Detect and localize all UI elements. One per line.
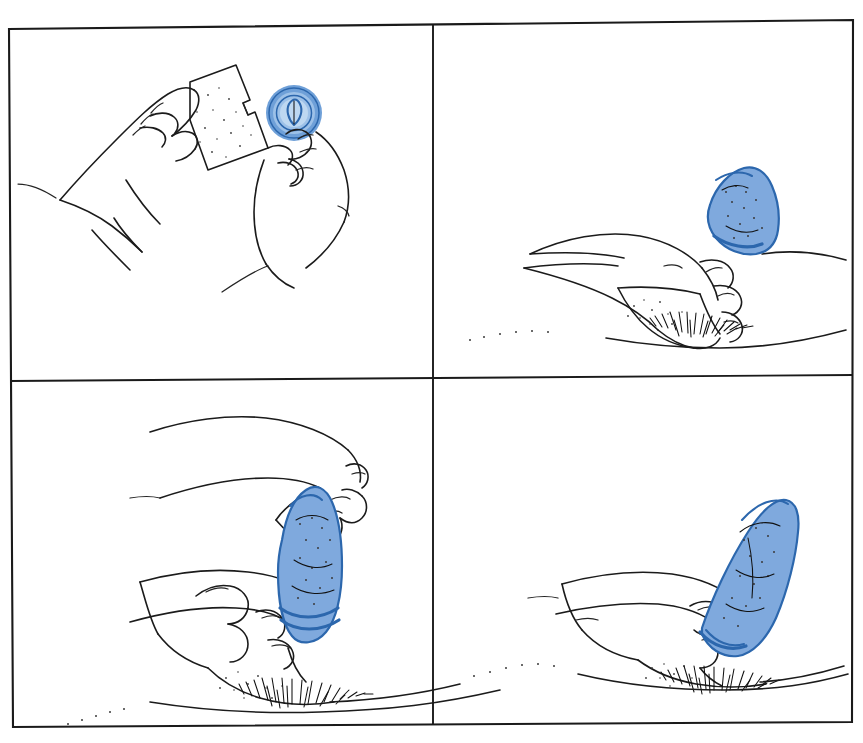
illustration-sheet: Condom use — step-by-step illustrated in… xyxy=(0,0,863,743)
rolled-condom-ring xyxy=(266,85,322,141)
four-panel-diagram xyxy=(0,0,863,743)
